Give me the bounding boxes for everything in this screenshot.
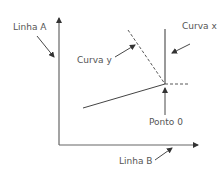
- label-curva-y: Curva y: [77, 56, 112, 65]
- curva-x-pointer-arrow: [172, 44, 190, 53]
- label-curva-x: Curva x: [182, 22, 217, 31]
- curva-y-line: [128, 30, 165, 84]
- linha-a-pointer-arrow: [37, 36, 54, 57]
- label-linha-a: Linha A: [13, 23, 46, 32]
- diagram-canvas: Linha A Curva x Curva y Ponto 0 Linha B: [0, 0, 221, 175]
- label-linha-b: Linha B: [119, 157, 152, 166]
- linha-b-pointer-arrow: [155, 148, 172, 160]
- label-ponto-0: Ponto 0: [149, 118, 183, 127]
- curva-y-pointer-arrow: [115, 45, 135, 57]
- sloped-solid-line: [83, 84, 165, 108]
